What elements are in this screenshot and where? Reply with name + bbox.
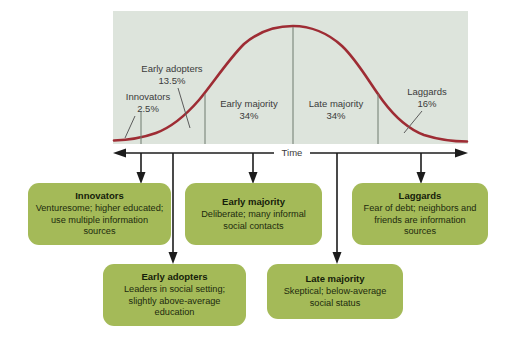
callout-early-majority-body: Deliberate; many informal social contact…	[191, 209, 316, 232]
callout-laggards-title: Laggards	[399, 190, 442, 202]
time-axis-arrow-left	[113, 149, 126, 158]
label-early-majority: Early majority	[220, 98, 278, 109]
label-late-majority: Late majority	[309, 98, 364, 109]
callout-early-majority-title: Early majority	[222, 196, 285, 208]
label-innovators: Innovators	[126, 91, 171, 102]
label-innovators-percent: 2.5%	[137, 103, 159, 114]
callout-early-adopters-title: Early adopters	[142, 271, 208, 283]
callout-innovators-body: Venturesome; higher educated; use multip…	[34, 203, 165, 238]
connector-arrow-early-adopters	[169, 252, 178, 264]
callout-innovators[interactable]: Innovators Venturesome; higher educated;…	[28, 183, 171, 245]
time-axis-label: Time	[282, 147, 303, 158]
callout-early-adopters-body: Leaders in social setting; slightly abov…	[109, 284, 240, 319]
label-early-majority-percent: 34%	[239, 110, 259, 121]
label-laggards: Laggards	[407, 86, 447, 97]
diagram-canvas: Innovators 2.5% Early adopters 13.5% Ear…	[0, 0, 514, 342]
callout-laggards[interactable]: Laggards Fear of debt; neighbors and fri…	[352, 183, 488, 245]
callout-innovators-title: Innovators	[75, 190, 124, 202]
adoption-curve-figure: Innovators 2.5% Early adopters 13.5% Ear…	[0, 0, 514, 342]
label-late-majority-percent: 34%	[326, 110, 346, 121]
callout-early-majority[interactable]: Early majority Deliberate; many informal…	[185, 183, 322, 245]
label-early-adopters-percent: 13.5%	[159, 75, 186, 86]
callout-laggards-body: Fear of debt; neighbors and friends are …	[358, 203, 482, 238]
callout-late-majority-body: Skeptical; below-average social status	[273, 286, 397, 309]
time-axis-arrow-right	[455, 149, 468, 158]
label-laggards-percent: 16%	[417, 98, 437, 109]
label-early-adopters: Early adopters	[141, 63, 203, 74]
connector-arrow-late-majority	[333, 252, 342, 264]
callout-early-adopters[interactable]: Early adopters Leaders in social setting…	[103, 264, 246, 326]
callout-late-majority[interactable]: Late majority Skeptical; below-average s…	[267, 264, 403, 319]
callout-late-majority-title: Late majority	[305, 273, 364, 285]
